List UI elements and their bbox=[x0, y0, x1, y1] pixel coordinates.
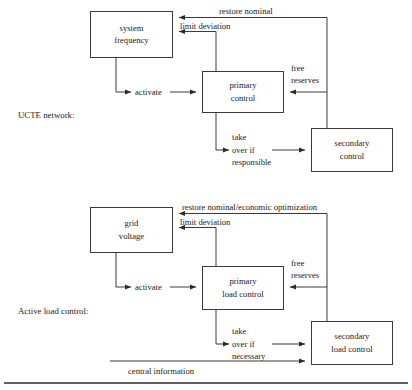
edge-label-takeover-lower-line1: take bbox=[232, 326, 246, 336]
edge-label-central-information: central information bbox=[128, 366, 195, 376]
edge-label-limit-deviation-upper: limit deviation bbox=[180, 21, 231, 31]
edge-label-limit-deviation-lower: limit deviation bbox=[180, 217, 231, 227]
edge-activate-upper-stub bbox=[116, 58, 131, 93]
control-hierarchy-diagram: UCTE network: system frequency primary c… bbox=[0, 0, 412, 390]
box-primary-control-label-line1: primary bbox=[229, 80, 257, 90]
edge-label-takeover-lower-line3: necessary bbox=[232, 351, 266, 361]
edge-label-activate-upper: activate bbox=[135, 87, 162, 97]
edge-label-free-reserves-upper-line1: free bbox=[291, 63, 305, 73]
box-secondary-load-control-label-line1: secondary bbox=[335, 331, 371, 341]
box-secondary-load-control: secondary load control bbox=[312, 322, 393, 365]
edge-takeover-lower-stub bbox=[216, 310, 229, 345]
box-system-frequency: system frequency bbox=[91, 12, 173, 58]
edge-label-restore-nominal-lower: restore nominal/economic optimization bbox=[182, 202, 318, 212]
edge-limit-deviation-upper bbox=[179, 32, 216, 72]
diagram-canvas: UCTE network: system frequency primary c… bbox=[0, 0, 412, 390]
section-label-ucte-network: UCTE network: bbox=[18, 110, 74, 120]
box-secondary-control-label-line2: control bbox=[340, 151, 365, 161]
edge-activate-lower-stub bbox=[116, 253, 131, 288]
edge-label-free-reserves-upper-line2: reserves bbox=[291, 75, 320, 85]
box-system-frequency-label-line2: frequency bbox=[114, 35, 149, 45]
edge-takeover-upper-stub bbox=[216, 113, 229, 151]
edge-label-takeover-upper-line2: over if bbox=[232, 145, 255, 155]
box-secondary-control: secondary control bbox=[312, 129, 393, 172]
section-label-active-load-control: Active load control: bbox=[18, 306, 88, 316]
box-primary-load-control: primary load control bbox=[203, 267, 284, 310]
box-grid-voltage: grid voltage bbox=[91, 208, 173, 253]
box-grid-voltage-label-line1: grid bbox=[125, 218, 140, 228]
box-primary-load-control-label-line2: load control bbox=[222, 289, 264, 299]
edge-label-restore-nominal-upper: restore nominal bbox=[219, 6, 273, 16]
edge-label-free-reserves-lower-line2: reserves bbox=[291, 270, 320, 280]
edge-label-activate-lower: activate bbox=[135, 282, 162, 292]
box-primary-control: primary control bbox=[203, 72, 284, 113]
box-primary-control-label-line2: control bbox=[231, 93, 256, 103]
edge-label-takeover-upper-line1: take bbox=[232, 132, 246, 142]
lower-diagram-group: Active load control: grid voltage primar… bbox=[18, 202, 393, 376]
box-secondary-load-control-label-line2: load control bbox=[331, 344, 373, 354]
box-primary-load-control-label-line1: primary bbox=[229, 276, 257, 286]
edge-label-takeover-upper-line3: responsible bbox=[232, 157, 271, 167]
box-grid-voltage-label-line2: voltage bbox=[119, 231, 144, 241]
edge-label-takeover-lower-line2: over if bbox=[232, 339, 255, 349]
upper-diagram-group: UCTE network: system frequency primary c… bbox=[18, 6, 393, 172]
edge-label-free-reserves-lower-line1: free bbox=[291, 258, 305, 268]
box-system-frequency-label-line1: system bbox=[120, 23, 144, 33]
box-secondary-control-label-line1: secondary bbox=[335, 138, 371, 148]
edge-limit-deviation-lower bbox=[179, 228, 216, 267]
